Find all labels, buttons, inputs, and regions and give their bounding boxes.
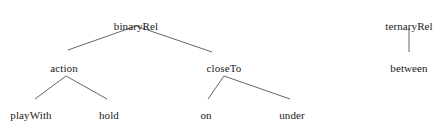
tree-node-action: action [50, 62, 77, 74]
tree-node-ternaryRel: ternaryRel [385, 20, 432, 32]
tree-node-between: between [390, 62, 427, 74]
tree-node-closeTo: closeTo [207, 62, 242, 74]
tree-node-playWith: playWith [10, 109, 51, 121]
tree-node-on: on [200, 109, 211, 121]
tree-edge-closeTo-to-on [208, 76, 224, 99]
tree-node-under: under [279, 109, 305, 121]
tree-edge-action-to-playWith [35, 76, 66, 99]
tree-edge-closeTo-to-under [224, 76, 290, 99]
tree-diagram-canvas: binaryRelactioncloseToplayWithholdonunde… [0, 0, 444, 124]
tree-node-binaryRel: binaryRel [114, 20, 158, 32]
tree-edge-action-to-hold [66, 76, 107, 99]
tree-node-hold: hold [99, 109, 119, 121]
